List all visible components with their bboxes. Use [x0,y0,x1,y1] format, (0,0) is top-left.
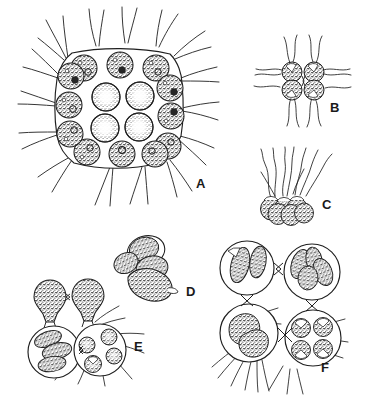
cell [304,80,324,100]
cell [142,141,168,167]
panel-f: F [212,241,348,394]
panel-b-label: B [330,100,339,115]
panel-d-cells [110,231,178,301]
cell [314,318,333,337]
cell [107,52,133,78]
panel-e-mother-cells [28,324,126,378]
cell [57,121,83,147]
cell [101,329,117,345]
cell [109,141,135,167]
cell [58,63,84,89]
cell [314,340,333,359]
cell [79,337,95,353]
panel-c-label: C [322,197,332,212]
cell [282,80,302,100]
cell [282,62,302,82]
cell [106,348,122,364]
cell [292,341,311,360]
panel-e: E [28,279,144,386]
figure-plate: A [0,0,368,395]
cell [125,113,153,141]
cell [304,62,324,82]
cell [92,83,120,111]
panel-a-label: A [196,176,206,191]
cell [292,319,311,338]
cell [157,75,183,101]
cell [85,356,102,373]
illustration-canvas: A [0,0,368,395]
panel-e-label: E [134,339,143,354]
cell [91,114,119,142]
panel-b-cells [282,62,324,100]
cell [158,103,184,129]
panel-c-cells [261,196,314,225]
panel-f-label: F [321,360,329,375]
panel-c: C [261,147,333,226]
cell [126,82,154,110]
panel-c-flagella [261,147,332,198]
panel-d-label: D [186,284,195,299]
panel-e-upper-cells [34,279,104,328]
panel-d: D [110,231,195,301]
panel-a: A [18,7,219,206]
cell [56,92,82,118]
panel-f-mother-cells [220,241,341,366]
panel-b: B [254,35,351,127]
